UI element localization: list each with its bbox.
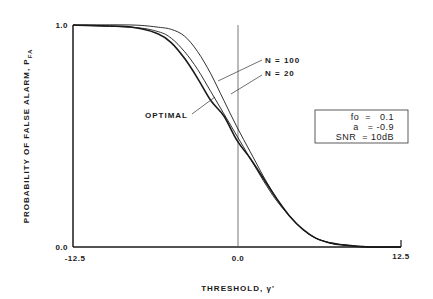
optimal-label: OPTIMAL — [145, 111, 188, 120]
chart: N = 100 N = 20 OPTIMAL fo = 0.1 a = -0.9… — [0, 0, 433, 299]
param-a: a = -0.9 — [353, 122, 394, 132]
ytick-1: 1.0 — [55, 21, 68, 30]
n20-label: N = 20 — [265, 69, 295, 78]
svg-text:PROBABILITY OF FALSE ALARM, PF: PROBABILITY OF FALSE ALARM, PFA — [22, 49, 33, 224]
y-axis-title: PROBABILITY OF FALSE ALARM, PFA — [22, 49, 33, 224]
n100-leader — [218, 60, 262, 81]
x-axis-title: THRESHOLD, γ' — [201, 284, 275, 293]
param-fo: fo = 0.1 — [351, 112, 394, 122]
optimal-leader — [192, 97, 215, 114]
xtick-right: 12.5 — [392, 252, 410, 261]
y-axis-title-sub: FA — [27, 49, 33, 59]
param-snr: SNR = 10dB — [336, 132, 394, 142]
ytick-0: 0.0 — [55, 243, 68, 252]
n20-leader — [231, 75, 262, 94]
xtick-mid: 0.0 — [232, 254, 245, 263]
y-axis-title-main: PROBABILITY OF FALSE ALARM, P — [22, 58, 31, 223]
n100-label: N = 100 — [265, 56, 300, 65]
xtick-left: -12.5 — [65, 254, 86, 263]
